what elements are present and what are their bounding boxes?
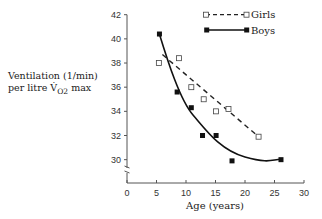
girls-data-point — [256, 134, 261, 139]
y-tick-label: 42 — [111, 10, 121, 20]
open-square-icon — [244, 12, 249, 17]
legend-label-girls: Girls — [251, 9, 275, 20]
chart: 30323436384042 051015202530 Age (years) … — [0, 0, 322, 219]
girls-data-point — [156, 61, 161, 66]
boys-data-point — [230, 158, 235, 163]
open-square-icon — [204, 12, 209, 17]
y-ticks: 30323436384042 — [111, 10, 127, 165]
x-tick-label: 25 — [269, 188, 279, 198]
y-tick-label: 40 — [111, 34, 121, 44]
x-tick-label: 15 — [210, 188, 220, 198]
x-tick-label: 30 — [299, 188, 309, 198]
girls-data-point — [189, 85, 194, 90]
y-tick-label: 38 — [111, 58, 121, 68]
legend-item-girls: Girls — [204, 9, 276, 20]
boys-data-point — [157, 32, 162, 37]
boys-data-point — [189, 105, 194, 110]
legend: Girls Boys — [204, 9, 276, 36]
y-tick-label: 32 — [111, 131, 121, 141]
x-tick-label: 5 — [154, 188, 159, 198]
girls-data-point — [176, 56, 181, 61]
boys-data-point — [214, 133, 219, 138]
legend-item-boys: Boys — [204, 25, 275, 36]
girls-data-point — [214, 109, 219, 114]
girls-fit-line — [162, 55, 258, 137]
filled-square-icon — [204, 28, 209, 33]
legend-label-boys: Boys — [251, 25, 275, 36]
x-tick-label: 20 — [240, 188, 250, 198]
y-tick-label: 34 — [111, 106, 121, 116]
boys-fit-curve — [159, 34, 281, 161]
girls-data-point — [226, 106, 231, 111]
axis-break-icon — [125, 166, 130, 173]
axes — [125, 15, 305, 183]
x-tick-label: 0 — [124, 188, 129, 198]
x-tick-label: 10 — [181, 188, 191, 198]
x-axis-label: Age (years) — [185, 200, 244, 211]
girls-data-point — [201, 97, 206, 102]
boys-data-point — [175, 90, 180, 95]
boys-data-point — [200, 133, 205, 138]
y-tick-label: 30 — [111, 155, 121, 165]
filled-square-icon — [244, 28, 249, 33]
y-tick-label: 36 — [111, 82, 121, 92]
boys-data-point — [278, 157, 283, 162]
